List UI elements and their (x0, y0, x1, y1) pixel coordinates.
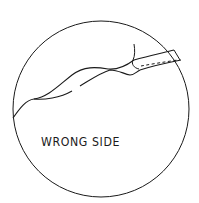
seam-band-end (174, 50, 180, 60)
fabric-fold-upper-edge (13, 60, 134, 118)
seam-band-bottom-edge (140, 60, 181, 70)
fabric-fold-lower-edge (34, 70, 140, 99)
sewing-detail-diagram: WRONG SIDE (0, 0, 199, 203)
magnifier-circle (13, 21, 189, 197)
wrong-side-label: WRONG SIDE (41, 136, 120, 150)
diagram-canvas (0, 0, 199, 203)
seam-band-top-edge (134, 50, 174, 60)
thread-tail (132, 44, 139, 69)
